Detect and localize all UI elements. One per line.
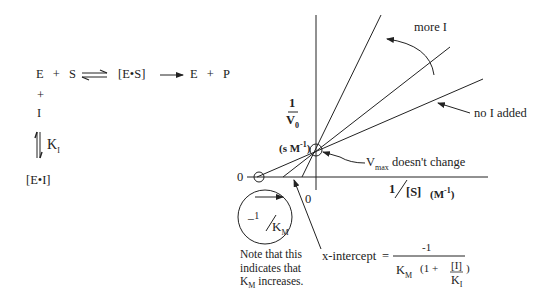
vertical-equilibrium-arrows-icon [35,132,42,158]
formula-numerator: -1 [422,241,431,253]
enzyme-E: E [36,67,44,81]
substrate-S: S [69,67,76,81]
x-intercept-label: x-intercept [322,249,376,264]
y-axis-units: (s M-1) [279,140,310,154]
formula-close: ) [466,262,470,274]
enzyme-inhibitor-complex: [E•I] [26,173,51,188]
neg-inverse-km-den: KM [272,219,289,237]
x-label-denominator: [S] [406,185,421,200]
formula-open: (1 + [420,262,438,274]
vmax-label: Vmax doesn't change [366,155,465,172]
plus-inhibitor: + [37,88,44,103]
formula-km: KM [396,263,412,280]
neg-inverse-km-label: −1 [247,210,259,228]
no-inhibitor-label: no I added [474,106,527,121]
products: E + P [190,67,230,82]
formula-ki: KI [451,273,462,289]
x-intercept-pointer [294,180,321,249]
equals-sign: = [382,249,389,264]
y-label-numerator: 1 [289,96,295,111]
more-inhibitor-curved-arrow [387,39,434,75]
origin-zero: 0 [305,192,311,207]
x-label-numerator: 1 [389,182,395,197]
no-inhibitor-pointer-arrow [438,103,470,113]
y-label-denominator: V0 [286,113,299,130]
inhibitor-I: I [37,106,41,121]
equilibrium-arrows-icon [82,70,107,80]
formula-inhibitor-conc: [I] [451,259,462,271]
more-inhibitor-label: more I [414,20,447,35]
enzyme-substrate-complex: [E•S] [118,67,145,82]
x-axis-units: (M-1) [430,186,454,200]
vmax-pointer-arrow [323,152,365,163]
km-note: Note that this indicates that KM increas… [240,248,300,293]
ki-label: KI [47,137,60,155]
x-axis-zero-left: 0 [237,170,243,185]
reaction-row: E + S [36,67,76,82]
